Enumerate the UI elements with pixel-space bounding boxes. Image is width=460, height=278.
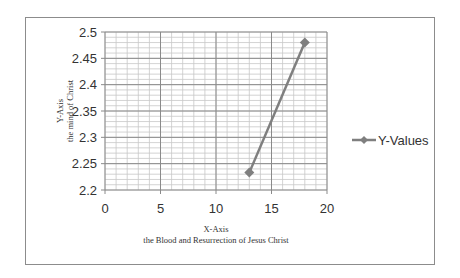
legend-diamond-icon [360,136,368,144]
y-tick-label: 2.3 [79,130,97,145]
y-tick-label: 2.35 [72,104,97,119]
y-axis-ticks: 2.22.252.32.352.42.452.5 [72,25,97,198]
line-chart: 2.22.252.32.352.42.452.5 05101520 Y-Axis… [0,0,460,278]
data-point-diamond-icon [300,38,310,48]
plot-grid [101,32,327,194]
x-tick-label: 20 [320,201,334,216]
x-axis-ticks: 05101520 [101,201,334,216]
legend: Y-Values [352,133,429,148]
x-tick-label: 5 [157,201,164,216]
y-tick-label: 2.2 [79,183,97,198]
y-axis-subtitle: the mind of Christ [65,79,75,142]
x-tick-label: 15 [264,201,278,216]
y-tick-label: 2.25 [72,156,97,171]
y-axis-title: Y-Axis [55,99,65,123]
y-tick-label: 2.45 [72,51,97,66]
legend-label: Y-Values [378,133,429,148]
x-axis-subtitle: the Blood and Resurrection of Jesus Chri… [143,235,289,245]
x-tick-label: 10 [209,201,223,216]
y-tick-label: 2.4 [79,77,97,92]
x-axis-title: X-Axis [203,224,228,234]
x-tick-label: 0 [101,201,108,216]
y-tick-label: 2.5 [79,25,97,40]
